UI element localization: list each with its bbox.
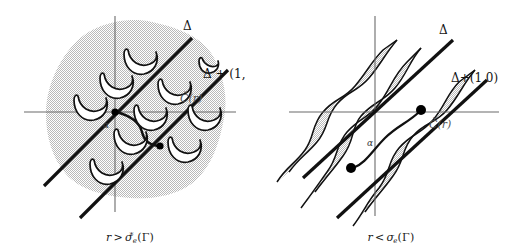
caption-left: r>σ*e(Γ) xyxy=(0,231,260,245)
left-panel-canvas: Δ Δ + (1, Č(r) α xyxy=(0,0,260,251)
label-delta: Δ xyxy=(183,19,192,33)
panel-r-less-sigma: Δ Δ+(1,0) Č(r) α r<σe(Γ) xyxy=(261,0,521,251)
panel-r-greater-sigma: Δ Δ + (1, Č(r) α r>σ*e(Γ) xyxy=(0,0,260,251)
caption-sigma: σ xyxy=(387,231,395,244)
caption-variable: r xyxy=(368,231,373,244)
label-delta: Δ xyxy=(439,23,448,37)
label-c-check: Č(r) xyxy=(429,117,451,131)
right-panel-canvas: Δ Δ+(1,0) Č(r) α xyxy=(261,0,521,251)
caption-relation: > xyxy=(111,231,124,244)
dot-shifted xyxy=(156,142,163,149)
caption-relation: < xyxy=(373,231,386,244)
dot-origin xyxy=(111,108,118,115)
dot-lower xyxy=(346,163,356,173)
figure-container: Δ Δ + (1, Č(r) α r>σ*e(Γ) xyxy=(0,0,521,251)
label-alpha: α xyxy=(103,120,109,130)
caption-right: r<σe(Γ) xyxy=(261,231,521,245)
caption-sigma: σ xyxy=(125,231,133,244)
dot-upper xyxy=(416,105,426,115)
line-delta-shifted xyxy=(337,80,487,218)
label-c-check: Č(r) xyxy=(180,91,202,105)
label-alpha: α xyxy=(367,138,373,148)
label-delta-shifted: Δ+(1,0) xyxy=(451,71,498,85)
caption-variable: r xyxy=(106,231,111,244)
label-delta-shifted: Δ + (1, xyxy=(203,67,245,81)
caption-argument: (Γ) xyxy=(398,231,415,244)
caption-argument: (Γ) xyxy=(137,231,154,244)
